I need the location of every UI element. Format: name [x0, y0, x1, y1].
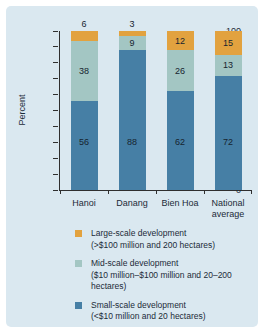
- y-tick-mark: [53, 158, 58, 159]
- legend-item: Small-scale development(<$10 million and…: [75, 300, 253, 323]
- figure: Percent 010203040506070809010056386Hanoi…: [0, 0, 267, 336]
- bar-value-label: 13: [215, 59, 242, 71]
- bar-value-label: 62: [167, 136, 194, 148]
- bar-value-label: 88: [119, 136, 146, 148]
- bar-segment-small-scale: [119, 50, 146, 190]
- bar-value-label: 38: [71, 65, 98, 77]
- x-tick-mark: [156, 190, 157, 194]
- bar-segment-large-scale: [119, 31, 146, 36]
- x-tick-mark: [60, 190, 61, 194]
- legend-swatch-icon: [75, 260, 82, 267]
- y-tick-mark: [53, 174, 58, 175]
- x-tick-mark: [251, 190, 252, 194]
- legend-sublabel: (>$100 million and 200 hectares): [91, 240, 253, 252]
- bar-segment-small-scale: [215, 76, 242, 190]
- category-label: Bien Hoa: [156, 198, 204, 209]
- category-label: National average: [204, 198, 252, 220]
- legend-label: Large-scale development: [91, 228, 253, 240]
- legend-item: Large-scale development(>$100 million an…: [75, 228, 253, 251]
- chart-panel: Percent 010203040506070809010056386Hanoi…: [6, 6, 258, 327]
- bar-value-label: 12: [167, 35, 194, 47]
- y-tick-mark: [53, 78, 58, 79]
- legend-sublabel: (<$10 million and 20 hectares): [91, 311, 253, 323]
- bar-value-label: 6: [71, 18, 98, 30]
- bar-value-label: 15: [215, 37, 242, 49]
- y-tick-mark: [53, 190, 58, 191]
- category-label: Danang: [108, 198, 156, 209]
- legend-label: Mid-scale development: [91, 258, 253, 270]
- bar-value-label: 72: [215, 136, 242, 148]
- bar-value-label: 3: [119, 18, 146, 30]
- y-tick-mark: [53, 62, 58, 63]
- bar-value-label: 26: [167, 65, 194, 77]
- y-tick-mark: [53, 110, 58, 111]
- legend-swatch-icon: [75, 230, 82, 237]
- y-tick-mark: [53, 94, 58, 95]
- bar-value-label: 56: [71, 136, 98, 148]
- y-tick-mark: [53, 126, 58, 127]
- legend-sublabel: ($10 million–$100 million and 20–200 hec…: [91, 270, 253, 293]
- y-tick-mark: [53, 142, 58, 143]
- y-tick-mark: [53, 31, 58, 32]
- legend-label: Small-scale development: [91, 300, 253, 312]
- plot-area: 010203040506070809010056386Hanoi8893Dana…: [59, 31, 252, 191]
- bar-value-label: 9: [119, 37, 146, 49]
- x-tick-mark: [204, 190, 205, 194]
- legend-swatch-icon: [75, 302, 82, 309]
- bar-segment-large-scale: [71, 31, 98, 41]
- legend-item: Mid-scale development($10 million–$100 m…: [75, 258, 253, 293]
- y-tick-mark: [53, 46, 58, 47]
- y-axis-title: Percent: [16, 80, 28, 140]
- legend: Large-scale development(>$100 million an…: [75, 228, 253, 323]
- x-tick-mark: [108, 190, 109, 194]
- category-label: Hanoi: [60, 198, 108, 209]
